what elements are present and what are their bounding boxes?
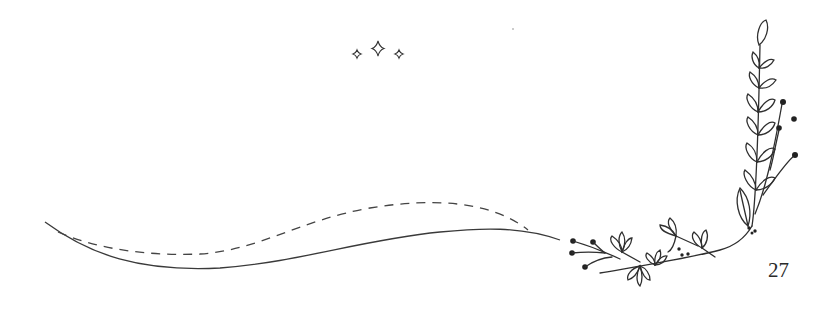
page-illustration (0, 0, 840, 312)
book-page: 27 (0, 0, 840, 312)
dashed-wave-line (58, 203, 528, 255)
sparkles-icon (353, 41, 403, 58)
solid-wave-line (45, 222, 560, 269)
page-number: 27 (768, 258, 789, 283)
stray-dot (512, 28, 514, 30)
left-sprigs (572, 218, 715, 286)
berries (569, 99, 798, 270)
